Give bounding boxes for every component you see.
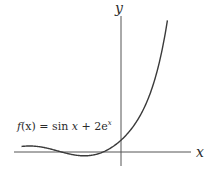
function-label-tail: + 2e xyxy=(78,120,108,133)
y-axis-label: y xyxy=(114,0,124,16)
function-plot: y x f(x) = sin x + 2ex xyxy=(0,0,213,172)
function-curve xyxy=(22,20,168,155)
function-label-body: (x) = sin xyxy=(21,120,72,133)
x-axis-label: x xyxy=(196,144,204,160)
function-label: f(x) = sin x + 2ex xyxy=(16,119,112,133)
function-label-exponent: x xyxy=(108,119,112,127)
